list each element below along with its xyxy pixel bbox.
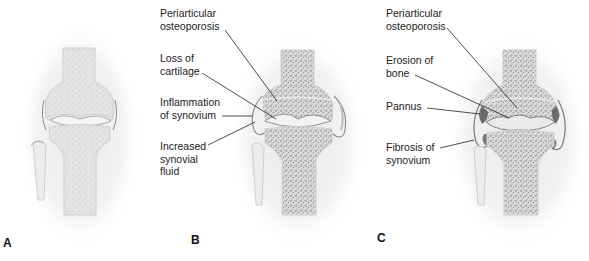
label-c-pannus: Pannus — [386, 100, 422, 113]
panel-c-knee — [446, 30, 589, 250]
rheumatoid-arthritis-knee-diagram: Periarticular osteoporosis Loss of carti… — [0, 0, 589, 261]
panel-a-knee — [18, 20, 142, 250]
label-b-periarticular-osteoporosis: Periarticular osteoporosis — [160, 7, 220, 32]
panel-letter-b: B — [191, 233, 200, 247]
panel-letter-a: A — [3, 236, 12, 250]
label-b-inflammation-of-synovium: Inflammation of synovium — [160, 96, 220, 121]
label-b-loss-of-cartilage: Loss of cartilage — [160, 52, 200, 77]
label-c-periarticular-osteoporosis: Periarticular osteoporosis — [386, 7, 446, 32]
label-c-erosion-of-bone: Erosion of bone — [386, 54, 433, 79]
panel-letter-c: C — [377, 231, 386, 245]
label-c-fibrosis-of-synovium: Fibrosis of synovium — [386, 141, 434, 166]
label-b-increased-synovial-fluid: Increased synovial fluid — [160, 140, 206, 178]
knee-illustrations — [0, 0, 589, 261]
